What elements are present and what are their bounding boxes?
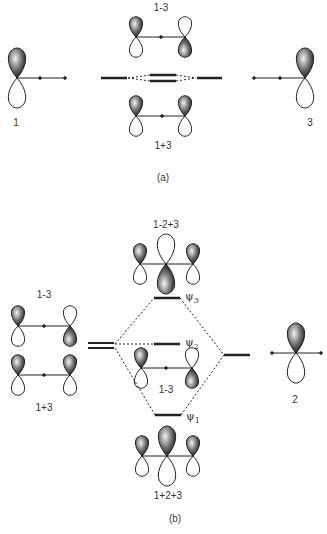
combination-1-minus-3 <box>129 17 191 58</box>
combination-1-plus-3 <box>129 96 191 137</box>
label-psi3: ψ3 <box>185 290 199 305</box>
label-b-middle-1-minus-3: 1-3 <box>159 384 173 395</box>
label-1-plus-2-plus-3: 1+2+3 <box>154 490 182 501</box>
label-psi2: ψ2 <box>185 336 199 351</box>
label-1-minus-2-plus-3: 1-2+3 <box>153 219 179 230</box>
label-psi1: ψ1 <box>186 410 200 425</box>
label-orbital-1: 1 <box>13 117 19 128</box>
diagram-graphics <box>0 0 327 534</box>
left-combination-1-minus-3 <box>11 306 76 347</box>
mo-psi3-orbital <box>133 234 199 294</box>
left-combination-1-plus-3 <box>11 355 76 396</box>
label-orbital-3: 3 <box>307 117 313 128</box>
label-a-1-minus-3: 1-3 <box>154 2 168 13</box>
caption-b: (b) <box>169 513 181 524</box>
label-a-1-plus-3: 1+3 <box>155 140 172 151</box>
label-orbital-2: 2 <box>292 394 298 405</box>
caption-a: (a) <box>157 172 169 183</box>
mo-psi1-orbital <box>135 426 199 486</box>
label-b-left-1-plus-3: 1+3 <box>36 402 53 413</box>
mo-diagram: 1-3 1 3 1+3 (a) 1-2+3 1-3 1+3 1-3 2 1+2+… <box>0 0 327 534</box>
mo-psi2-orbital <box>134 348 198 389</box>
label-b-left-1-minus-3: 1-3 <box>37 289 51 300</box>
